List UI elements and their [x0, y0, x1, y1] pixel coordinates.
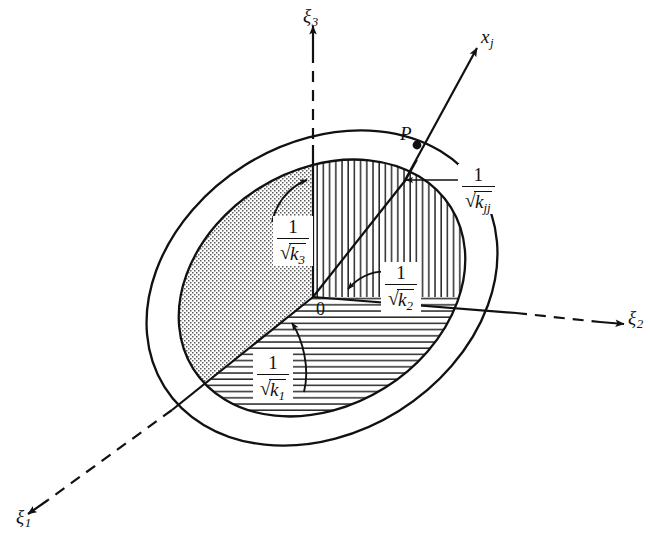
xi2-arrowhead: [600, 322, 624, 324]
vertical-hatch-region: [313, 100, 540, 297]
point-p-label: P: [400, 124, 412, 143]
axis-label-xj: xj: [481, 27, 494, 49]
xi2-axis-dashed-tail: [516, 313, 600, 322]
point-p-marker: [413, 141, 422, 150]
xi1-axis-dashed-tail: [48, 410, 172, 500]
annotation-k1: 1 √k1: [253, 352, 293, 402]
annotation-k2: 1 √k2: [381, 262, 421, 312]
annotation-kjj: 1 √kjj: [458, 164, 499, 214]
axis-label-xi3: ξ3: [303, 6, 318, 28]
horizontal-hatch-region: [100, 297, 540, 470]
ellipsoid-diagram: [0, 0, 652, 543]
axis-label-xi1: ξ1: [16, 507, 31, 529]
annotation-k3: 1 √k3: [273, 216, 313, 266]
origin-label: 0: [316, 300, 325, 318]
axis-label-xi2: ξ2: [628, 308, 643, 330]
